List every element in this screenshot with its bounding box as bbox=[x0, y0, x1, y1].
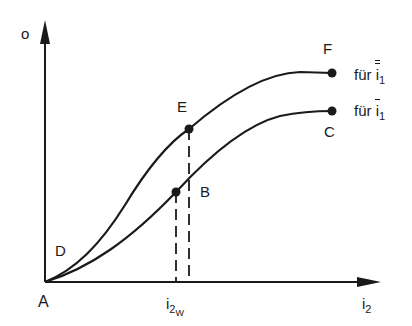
characteristic-curves-diagram bbox=[0, 0, 412, 326]
legend-upper-prefix: für bbox=[354, 66, 372, 83]
point-b-dot bbox=[172, 188, 181, 197]
point-label-f: F bbox=[323, 41, 332, 56]
y-axis-arrow-icon bbox=[40, 20, 50, 44]
legend-upper-sub: 1 bbox=[379, 74, 385, 86]
x-axis-arrow-icon bbox=[357, 277, 381, 287]
x-axis-label: i2 bbox=[362, 296, 371, 311]
legend-lower-curve: für i1 bbox=[354, 103, 385, 118]
legend-upper-curve: für i1 bbox=[354, 67, 385, 82]
point-label-d: D bbox=[55, 243, 66, 258]
point-label-c: C bbox=[324, 124, 335, 139]
y-axis-label: o bbox=[21, 26, 29, 41]
point-label-b: B bbox=[200, 184, 210, 199]
origin-label-a: A bbox=[38, 294, 49, 310]
point-f-dot bbox=[328, 69, 337, 78]
x-axis-sub: 2 bbox=[365, 303, 371, 315]
point-e-dot bbox=[185, 125, 194, 134]
x-marker-subsub: W bbox=[175, 308, 184, 318]
point-label-e: E bbox=[177, 99, 187, 114]
legend-lower-prefix: für bbox=[354, 102, 372, 119]
legend-lower-sub: 1 bbox=[379, 110, 385, 122]
point-c-dot bbox=[328, 107, 337, 116]
x-marker-label: i2W bbox=[166, 296, 184, 311]
